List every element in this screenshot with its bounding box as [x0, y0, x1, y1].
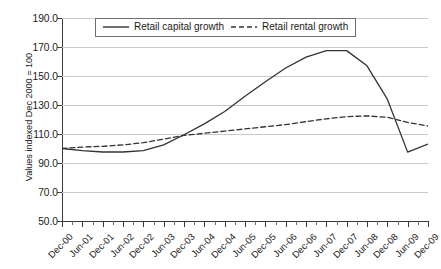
x-axis-tick-label: Dec-05: [228, 231, 278, 269]
y-axis-tick-labels: 190.0170.0150.0130.0110.090.070.050.0: [14, 0, 58, 269]
x-axis-minor-tick-mark: [296, 221, 297, 225]
y-axis-tick-mark: [57, 105, 62, 106]
series-lines: [62, 18, 428, 221]
chart-legend: Retail capital growth Retail rental grow…: [95, 18, 356, 37]
y-axis-tick-label: 70.0: [38, 187, 58, 198]
x-axis-tick-label: Jun-07: [289, 231, 339, 269]
x-axis-tick-mark: [143, 221, 144, 227]
x-axis-tick-label: Dec-04: [187, 231, 237, 269]
x-axis-minor-tick-mark: [113, 221, 114, 225]
x-axis-minor-tick-mark: [215, 221, 216, 225]
x-axis-tick-mark: [103, 221, 104, 227]
x-axis-minor-tick-mark: [154, 221, 155, 225]
y-axis-tick-label: 190.0: [33, 13, 59, 24]
x-axis-minor-tick-mark: [235, 221, 236, 225]
x-axis-tick-mark: [164, 221, 165, 227]
legend-item-retail-capital-growth: Retail capital growth: [103, 21, 224, 33]
y-axis-tick-label: 170.0: [33, 42, 59, 53]
x-axis-tick-label: Jun-09: [370, 231, 420, 269]
x-axis-tick-label: Jun-04: [167, 231, 217, 269]
y-axis-tick-label: 150.0: [33, 71, 59, 82]
x-axis-tick-label: Dec-09: [391, 231, 441, 269]
series-line-retail-rental-growth: [62, 116, 428, 149]
x-axis-minor-tick-mark: [418, 221, 419, 225]
x-axis-tick-label: Dec-07: [309, 231, 359, 269]
x-axis-tick-mark: [204, 221, 205, 227]
legend-label-capital: Retail capital growth: [134, 21, 224, 33]
x-axis-tick-mark: [367, 221, 368, 227]
x-axis-minor-tick-mark: [255, 221, 256, 225]
x-axis-tick-mark: [225, 221, 226, 227]
y-axis-tick-label: 130.0: [33, 100, 59, 111]
x-axis-tick-mark: [347, 221, 348, 227]
x-axis-tick-label: Jun-08: [330, 231, 380, 269]
x-axis-tick-mark: [123, 221, 124, 227]
legend-label-rental: Retail rental growth: [262, 21, 348, 33]
x-axis-tick-label: Dec-08: [350, 231, 400, 269]
x-axis-tick-label: Jun-06: [248, 231, 298, 269]
y-axis-tick-label: 90.0: [38, 158, 58, 169]
x-axis-tick-label: Dec-06: [269, 231, 319, 269]
y-axis-tick-label: 50.0: [38, 216, 58, 227]
y-axis-tick-mark: [57, 134, 62, 135]
x-axis-minor-tick-mark: [93, 221, 94, 225]
x-axis-minor-tick-mark: [316, 221, 317, 225]
x-axis-minor-tick-mark: [377, 221, 378, 225]
x-axis-minor-tick-mark: [133, 221, 134, 225]
x-axis-tick-mark: [245, 221, 246, 227]
legend-swatch-solid-icon: [103, 23, 129, 31]
x-axis-minor-tick-mark: [72, 221, 73, 225]
x-axis-tick-mark: [306, 221, 307, 227]
x-axis-tick-label: Dec-03: [147, 231, 197, 269]
x-axis-tick-mark: [82, 221, 83, 227]
x-axis-tick-label: Dec-02: [106, 231, 156, 269]
plot-area: [62, 18, 428, 221]
series-line-retail-capital-growth: [62, 51, 428, 153]
y-axis-tick-mark: [57, 76, 62, 77]
x-axis-tick-label: Jun-03: [126, 231, 176, 269]
legend-item-retail-rental-growth: Retail rental growth: [231, 21, 348, 33]
x-axis-minor-tick-mark: [194, 221, 195, 225]
x-axis-tick-mark: [265, 221, 266, 227]
x-axis-minor-tick-mark: [276, 221, 277, 225]
x-axis-ticks: [62, 221, 428, 227]
y-axis-tick-mark: [57, 163, 62, 164]
x-axis-minor-tick-mark: [174, 221, 175, 225]
x-axis-tick-mark: [286, 221, 287, 227]
x-axis-tick-mark: [62, 221, 63, 227]
x-axis-tick-mark: [428, 221, 429, 227]
y-axis-tick-mark: [57, 47, 62, 48]
y-axis-tick-mark: [57, 221, 62, 222]
y-axis-tick-mark: [57, 18, 62, 19]
x-axis-tick-label: Jun-02: [86, 231, 136, 269]
y-axis-tick-mark: [57, 192, 62, 193]
x-axis-minor-tick-mark: [398, 221, 399, 225]
x-axis-tick-label: Dec-01: [65, 231, 115, 269]
x-axis-tick-mark: [326, 221, 327, 227]
x-axis-minor-tick-mark: [337, 221, 338, 225]
x-axis-minor-tick-mark: [357, 221, 358, 225]
legend-swatch-dashed-icon: [231, 23, 257, 31]
x-axis-tick-mark: [408, 221, 409, 227]
x-axis-tick-mark: [387, 221, 388, 227]
x-axis-tick-mark: [184, 221, 185, 227]
x-axis-tick-label: Jun-05: [208, 231, 258, 269]
y-axis-tick-label: 110.0: [33, 129, 58, 140]
